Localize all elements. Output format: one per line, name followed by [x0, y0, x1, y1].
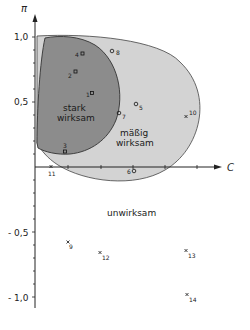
region-label-unwirksam: unwirksam	[107, 208, 156, 218]
y-tick-label-neg-0-5: - 0,5	[8, 228, 28, 238]
data-label-11: 11	[48, 170, 56, 177]
x-axis-label: C	[227, 162, 234, 173]
region-label-stark: stark	[63, 103, 86, 113]
data-label-3: 3	[63, 142, 67, 149]
y-axis-label: π	[21, 3, 28, 14]
data-label-2: 2	[68, 72, 72, 79]
data-label-5: 5	[139, 104, 143, 111]
data-label-12: 12	[102, 254, 110, 261]
region-label-stark-wirksam: wirksam	[57, 113, 95, 123]
y-tick-label-1-0: 1,0	[14, 32, 29, 42]
x-axis-arrow	[214, 165, 222, 170]
data-label-4: 4	[75, 51, 79, 58]
data-label-1: 1	[86, 91, 90, 98]
region-label-maessig: mäßig	[120, 128, 148, 138]
y-tick-label-neg-1-0: - 1,0	[8, 293, 29, 303]
data-label-9: 9	[69, 243, 73, 250]
data-label-7: 7	[122, 113, 126, 120]
scatter-chart: π 1,0 0,5 - 0,5 - 1,0	[0, 0, 250, 330]
y-tick-label-0-5: 0,5	[14, 97, 28, 107]
y-axis-arrow	[33, 14, 38, 22]
data-label-14: 14	[189, 296, 197, 303]
data-label-8: 8	[116, 49, 120, 56]
region-label-maessig-wirksam: wirksam	[116, 138, 154, 148]
data-label-10: 10	[189, 109, 197, 116]
data-label-6: 6	[127, 168, 131, 175]
data-label-13: 13	[188, 252, 196, 259]
